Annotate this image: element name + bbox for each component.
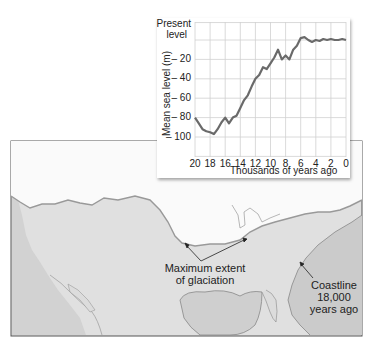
chart-grid <box>195 22 346 157</box>
x-axis-title: Thousands of years ago <box>230 165 337 176</box>
glaciation-label-line1: Maximum extent <box>160 262 250 274</box>
coastline-label-line3: years ago <box>305 303 363 315</box>
x-tick-0: 0 <box>339 159 353 169</box>
sea-level-chart: Present level – 20 – 40 – 60 – 80 – 100 … <box>157 18 350 178</box>
y-axis-title: Mean sea level (m) <box>161 51 172 136</box>
x-tick-18: 18 <box>203 159 217 169</box>
glaciation-label: Maximum extent of glaciation <box>160 262 250 286</box>
gulf-of-mexico <box>180 291 262 335</box>
coastline-label-line2: 18,000 <box>305 291 363 303</box>
coastline-label: Coastline 18,000 years ago <box>305 279 363 315</box>
glaciation-label-line2: of glaciation <box>160 274 250 286</box>
x-tick-20: 20 <box>188 159 202 169</box>
y-tick-present: Present level <box>151 18 191 40</box>
coastline-label-line1: Coastline <box>305 279 363 291</box>
y-tick-present-line1: Present <box>151 18 191 29</box>
y-tick-present-line2: level <box>151 29 187 40</box>
